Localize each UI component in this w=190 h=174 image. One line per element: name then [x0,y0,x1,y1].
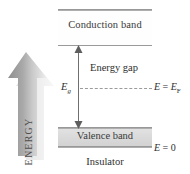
zero-rhs: 0 [171,142,176,153]
band-structure-diagram: ENERGY Conduction band Valence band Ener… [0,0,190,173]
energy-gap-arrow-svg [72,45,85,129]
energy-gap-label: Energy gap [90,62,138,73]
energy-gap-arrow [72,45,85,129]
energy-gap-symbol-subscript: g [67,87,71,95]
conduction-band-top-line [58,9,152,11]
energy-axis-label: ENERGY [23,106,34,174]
gap-arrow-head-up [75,45,83,53]
zero-equals: = [160,142,171,153]
fermi-level-dashed-line [80,88,152,89]
figure-caption: Insulator [58,156,152,167]
gap-arrow-head-down [75,121,83,129]
fermi-rhs-subscript: F [177,87,181,95]
zero-level-label: E = 0 [154,142,176,153]
fermi-equals: = [160,81,171,92]
fermi-level-label: E = EF [154,81,181,95]
energy-axis-arrow: ENERGY [6,48,54,160]
conduction-band-label: Conduction band [58,19,152,30]
valence-band-bottom-line [58,146,152,148]
valence-band-label: Valence band [58,130,152,141]
energy-gap-symbol: Eg [61,81,71,95]
